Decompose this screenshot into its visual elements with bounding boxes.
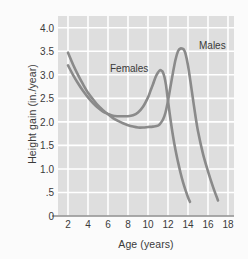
y-tick-label: 4.0 — [28, 22, 54, 33]
y-tick-label: 3.0 — [28, 69, 54, 80]
y-axis-ticks: 0.51.01.52.02.53.03.54.0 — [26, 0, 54, 259]
x-tick-label: 18 — [222, 219, 233, 230]
y-tick-label: 2.5 — [28, 93, 54, 104]
x-tick-label: 6 — [105, 219, 111, 230]
x-tick-label: 8 — [125, 219, 131, 230]
x-tick-label: 2 — [65, 219, 71, 230]
x-tick-label: 14 — [182, 219, 193, 230]
series-label-males: Males — [199, 40, 226, 51]
x-axis-label: Age (years) — [58, 238, 234, 250]
series-label-females: Females — [110, 63, 148, 74]
y-tick-label: .5 — [28, 187, 54, 198]
x-tick-label: 10 — [142, 219, 153, 230]
chart-figure: Height gain (in./year) Age (years) 0.51.… — [0, 0, 248, 259]
y-tick-label: 1.5 — [28, 140, 54, 151]
y-tick-label: 2.0 — [28, 116, 54, 127]
y-tick-label: 1.0 — [28, 163, 54, 174]
x-tick-label: 12 — [162, 219, 173, 230]
x-tick-label: 4 — [85, 219, 91, 230]
y-tick-label: 3.5 — [28, 46, 54, 57]
y-tick-label: 0 — [28, 211, 54, 222]
x-tick-label: 16 — [202, 219, 213, 230]
